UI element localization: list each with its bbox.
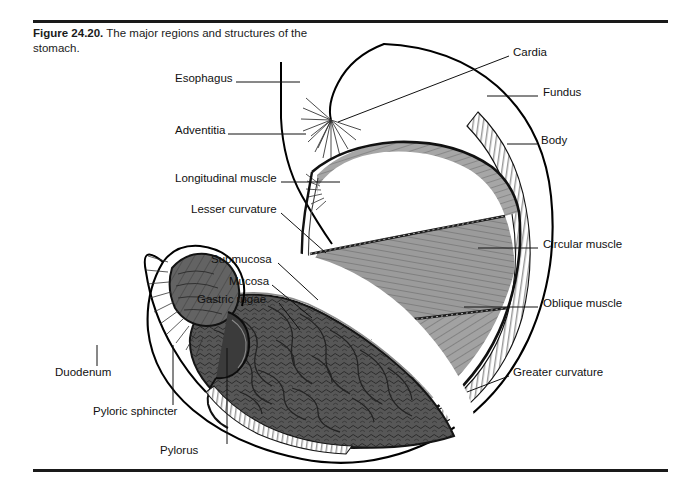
label-duodenum: Duodenum bbox=[55, 366, 111, 378]
label-circular-muscle: Circular muscle bbox=[543, 238, 622, 250]
label-gastric-rugae: Gastric rugae bbox=[197, 293, 266, 305]
label-mucosa: Mucosa bbox=[229, 275, 269, 287]
label-adventitia: Adventitia bbox=[175, 124, 226, 136]
label-pylorus: Pylorus bbox=[160, 444, 198, 456]
esophagus-tube bbox=[281, 44, 384, 244]
label-lesser-curvature: Lesser curvature bbox=[191, 203, 277, 215]
label-pyloric-sphincter: Pyloric sphincter bbox=[93, 405, 177, 417]
bottom-rule bbox=[33, 469, 668, 472]
label-fundus: Fundus bbox=[543, 86, 581, 98]
leader-cardia bbox=[338, 56, 509, 122]
figure-container: Figure 24.20. The major regions and stru… bbox=[0, 0, 686, 491]
label-body: Body bbox=[541, 134, 567, 146]
label-greater-curvature: Greater curvature bbox=[513, 366, 603, 378]
label-cardia: Cardia bbox=[513, 46, 547, 58]
label-esophagus: Esophagus bbox=[175, 72, 233, 84]
label-submucosa: Submucosa bbox=[211, 253, 272, 265]
label-oblique-muscle: Oblique muscle bbox=[543, 297, 622, 309]
label-longitudinal-muscle: Longitudinal muscle bbox=[175, 172, 277, 184]
